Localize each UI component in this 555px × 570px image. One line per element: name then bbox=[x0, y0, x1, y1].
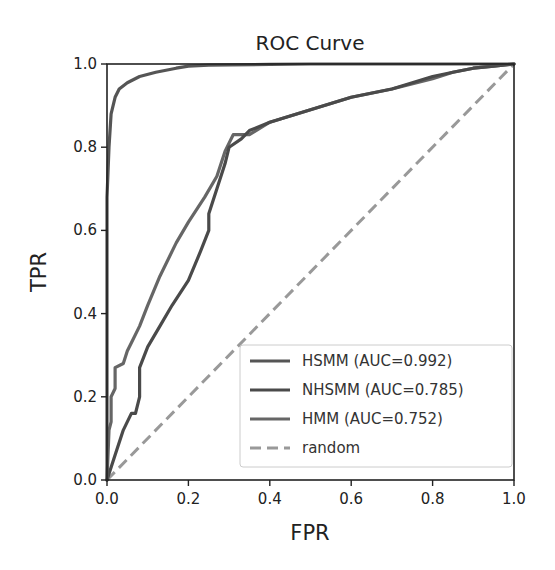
y-tick-label: 1.0 bbox=[73, 55, 97, 73]
x-tick-label: 0.4 bbox=[258, 490, 282, 508]
legend: HSMM (AUC=0.992)NHSMM (AUC=0.785)HMM (AU… bbox=[240, 345, 512, 467]
y-axis-label: TPR bbox=[27, 252, 51, 293]
x-tick-label: 0.2 bbox=[176, 490, 200, 508]
legend-label: random bbox=[302, 439, 360, 457]
x-tick-label: 0.6 bbox=[339, 490, 363, 508]
y-axis-ticks: 0.00.20.40.60.81.0 bbox=[73, 55, 107, 489]
y-tick-label: 0.8 bbox=[73, 138, 97, 156]
chart-title: ROC Curve bbox=[256, 31, 365, 55]
legend-label: NHSMM (AUC=0.785) bbox=[302, 381, 464, 399]
x-tick-label: 0.0 bbox=[95, 490, 119, 508]
legend-label: HMM (AUC=0.752) bbox=[302, 410, 443, 428]
x-tick-label: 0.8 bbox=[421, 490, 445, 508]
x-axis-ticks: 0.00.20.40.60.81.0 bbox=[95, 480, 526, 508]
legend-label: HSMM (AUC=0.992) bbox=[302, 352, 452, 370]
y-tick-label: 0.4 bbox=[73, 305, 97, 323]
y-tick-label: 0.0 bbox=[73, 471, 97, 489]
y-tick-label: 0.2 bbox=[73, 388, 97, 406]
x-axis-label: FPR bbox=[290, 521, 329, 545]
y-tick-label: 0.6 bbox=[73, 221, 97, 239]
x-tick-label: 1.0 bbox=[502, 490, 526, 508]
roc-chart: ROC Curve 0.00.20.40.60.81.0 0.00.20.40.… bbox=[0, 0, 555, 570]
